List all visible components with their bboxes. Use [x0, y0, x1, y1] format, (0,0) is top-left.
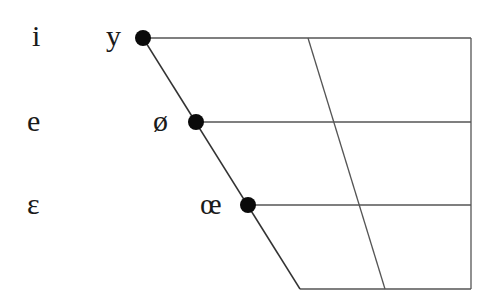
vowel-dot-y — [135, 30, 151, 46]
vowel-dot-oe — [240, 197, 256, 213]
label-oe: œ — [200, 189, 222, 219]
vowel-chart — [0, 0, 492, 305]
label-y: y — [106, 21, 121, 51]
label-e: e — [27, 106, 40, 136]
label-i: i — [32, 21, 40, 51]
vowel-dot-o-slash — [188, 114, 204, 130]
label-epsilon: ɛ — [27, 189, 40, 219]
label-o-slash: ø — [153, 106, 168, 136]
central-line — [308, 38, 385, 289]
front-edge-line — [143, 38, 300, 289]
